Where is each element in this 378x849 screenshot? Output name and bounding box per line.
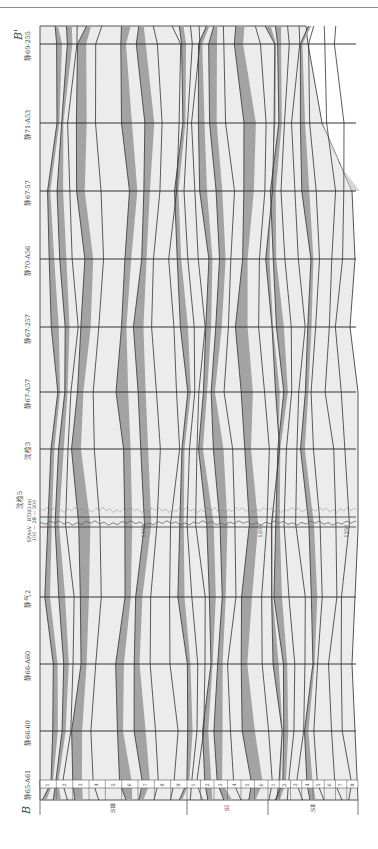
layer-number: 2 <box>281 783 287 786</box>
well-label: 静65-A61 <box>23 770 32 800</box>
layer-number: 8 <box>349 783 355 786</box>
layer-number: 7 <box>142 783 148 786</box>
well-label: 静70-A56 <box>23 246 32 276</box>
depth-mark: 1250 <box>343 525 349 538</box>
well-label: 沈检3 <box>23 442 32 460</box>
layer-number: 3 <box>217 783 223 786</box>
layer-number: 7 <box>337 783 343 786</box>
layer-number: 4 <box>93 783 99 786</box>
well-label: 静71-A53 <box>23 110 32 140</box>
layer-number: 4 <box>231 783 237 786</box>
layer-number: 6 <box>126 783 132 786</box>
formation-label: SⅡ <box>309 804 316 812</box>
layer-number: 5 <box>110 783 116 786</box>
layer-number: 9 <box>175 783 181 786</box>
layer-number: 6 <box>258 783 264 786</box>
well-label: 静67-57 <box>23 180 32 206</box>
well-label: 静气2 <box>23 590 32 608</box>
layer-number: 1 <box>190 783 196 786</box>
rt-axis-range: 0 — 200 <box>31 500 37 521</box>
well-label: 静67-257 <box>23 314 32 344</box>
section-end-label: B' <box>12 29 25 41</box>
layer-number: 5 <box>244 783 250 786</box>
well-label: 沈检5 <box>15 491 24 509</box>
well-label: 静66-A60 <box>23 651 32 681</box>
well-label: 静66-60 <box>23 720 32 746</box>
section-start-label: B <box>20 806 33 815</box>
depth-mark: 1150 <box>140 525 146 538</box>
well-labels: 静69-255静71-A53静67-57静70-A56静67-257静67-A5… <box>15 31 32 800</box>
layer-strip-band <box>40 780 358 788</box>
depth-mark: 1200 <box>257 525 263 538</box>
formation-labels: SⅢSⅠSⅡ <box>40 800 358 815</box>
layer-number: 8 <box>159 783 165 786</box>
layer-number: 5 <box>315 783 321 786</box>
layer-number: 6 <box>326 783 332 786</box>
formation-label: SⅠ <box>223 804 230 811</box>
formation-label: SⅢ <box>109 803 116 813</box>
layer-number: 4 <box>304 783 310 786</box>
layer-number: 2 <box>61 783 67 786</box>
well-label: 静67-A57 <box>23 379 32 409</box>
cross-section-diagram: SP/mV-100 — 20RT/(Ω·m)0 — 20011501200125… <box>0 0 378 849</box>
layer-number: 1 <box>44 783 50 786</box>
layer-number: 3 <box>77 783 83 786</box>
layer-number: 3 <box>292 783 298 786</box>
layer-number: 1 <box>270 783 276 786</box>
layer-number: 2 <box>204 783 210 786</box>
